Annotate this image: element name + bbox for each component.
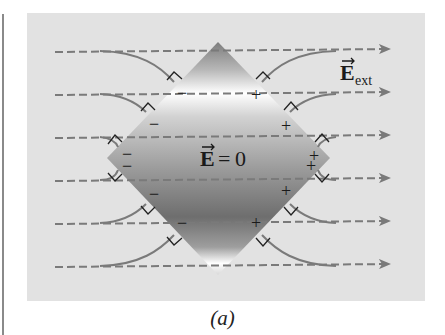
negative-charge: −	[177, 213, 187, 233]
negative-charge: −	[122, 156, 132, 176]
negative-charge: −	[149, 114, 159, 134]
figure-caption: (a)	[0, 306, 445, 331]
interior-field-label: E = 0	[200, 144, 246, 171]
positive-charge: +	[281, 181, 291, 201]
positive-charge: +	[251, 85, 261, 105]
field-diagram: − − − − − − + + + + + + E = 0 E ext	[0, 0, 445, 335]
positive-charge: +	[281, 116, 291, 136]
negative-charge: −	[149, 184, 159, 204]
external-field-label: E ext	[340, 58, 372, 88]
equals-sign: =	[218, 146, 230, 171]
vector-e: E	[200, 146, 215, 171]
positive-charge: +	[251, 213, 261, 233]
positive-charge: +	[306, 156, 316, 176]
negative-charge: −	[177, 83, 187, 103]
vector-e-ext: E	[340, 60, 355, 85]
ext-subscript: ext	[355, 73, 372, 88]
zero-value: 0	[235, 146, 246, 171]
